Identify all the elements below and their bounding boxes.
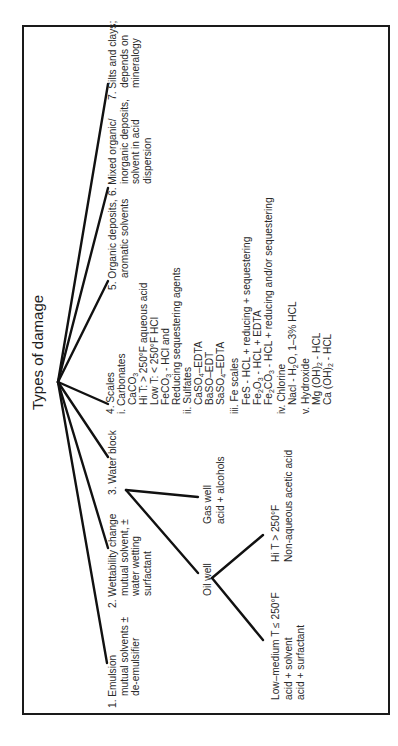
sulfates-heading: ii. Sulfates xyxy=(182,367,193,414)
oil-well-label: Oil well xyxy=(202,563,213,596)
carbonates-reducing: Reducing sequestering agents xyxy=(171,267,182,405)
branch-3-water-block: 3. Water block xyxy=(107,429,118,495)
sulfates-baso: BaSO–EDT xyxy=(204,352,215,405)
fe-scales-fes: FeS - HCL + reducing + sequestering xyxy=(241,236,252,405)
fe-scales-heading: iii. Fe scales xyxy=(229,358,240,414)
oil-well-hi-temp: Hi T > 250°F Non-aqueous acetic acid xyxy=(270,450,294,562)
sulfates-saso4: SaSO4–EDTA xyxy=(215,342,227,405)
connector-to-6 xyxy=(58,188,108,382)
branch-5-organic-deposits: 5. Organic deposits, aromatic solvents xyxy=(107,197,130,290)
hydroxide-ca: Ca (OH)2 - HCL xyxy=(322,333,334,405)
scales-heading: 4. Scales xyxy=(105,372,116,414)
connector-oil-to-low xyxy=(212,578,263,640)
branch-6-mixed-deposits: 6. Mixed organic/ inorganic deposits, so… xyxy=(107,96,153,196)
connector-to-7 xyxy=(58,84,108,382)
oil-well-low-temp: Low–medium T ≤ 250°F acid + solvent acid… xyxy=(270,589,306,700)
branch-7-silts-clays: 7. Silts and clays; depends on mineralog… xyxy=(107,18,141,100)
connector-water-to-gas xyxy=(126,490,198,497)
carbonates-low-t: Low T: < 250°F HCl xyxy=(149,317,160,405)
gas-well-label: Gas well acid + alcohols xyxy=(202,456,226,524)
connector-oil-to-hi xyxy=(212,535,263,578)
fe-scales-fe2co3: Fe2CO3 - HCL + reducing and/or sequester… xyxy=(263,197,275,405)
hydroxide-heading: v. Hydroxide xyxy=(300,358,311,414)
branch-4-scales: 4. Scales i. Carbonates CaCO3 Hi T: > 25… xyxy=(105,197,334,414)
chlorine-heading: iv. Chlorine xyxy=(276,363,287,414)
chlorine-nacl: Nacl - H2O, 1–3% HCL xyxy=(287,301,299,405)
carbonates-heading: i. Carbonates xyxy=(116,353,127,414)
branch-2-wettability: 2. Wettability change mutual solvent, ± … xyxy=(107,511,153,608)
carbonates-hi-t: Hi T: > 250°F aqueous acid xyxy=(138,282,149,405)
diagram-title: Types of damage xyxy=(29,295,46,410)
types-of-damage-diagram: Types of damage 1. Emulsion mutual solve… xyxy=(0,0,398,746)
branch-1-emulsion: 1. Emulsion mutual solvents ± de-emulsif… xyxy=(107,614,141,708)
